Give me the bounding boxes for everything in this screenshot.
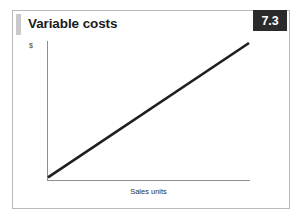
variable-costs-line-chart [13,39,289,208]
title-accent-bar [16,14,21,35]
variable-costs-trend-line [48,43,249,177]
x-axis-label: Sales units [47,187,250,197]
chart-plot-area: $ Sales units [13,39,289,208]
page-title: Variable costs [28,14,117,33]
figure-card: Variable costs 7.3 $ Sales units [12,10,290,209]
figure-number-badge: 7.3 [253,10,287,31]
figure-header: Variable costs 7.3 [13,11,289,39]
